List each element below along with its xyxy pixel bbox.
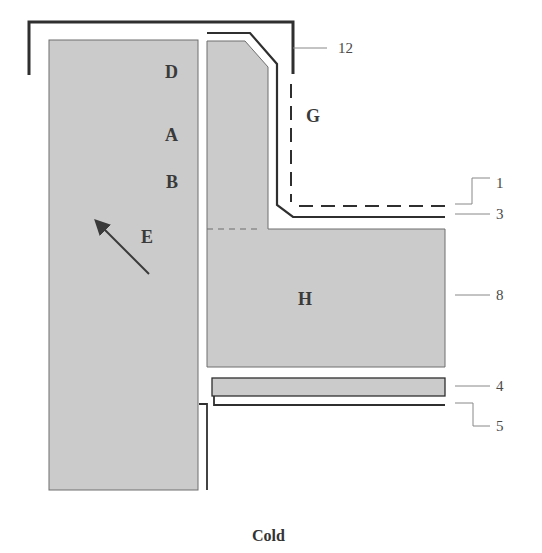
callout-3: 3 [496, 206, 504, 222]
dashed-line-1 [291, 84, 445, 206]
lower-gap-line [199, 404, 207, 490]
left-block [49, 40, 198, 490]
label-b: B [166, 172, 178, 192]
label-e: E [141, 227, 153, 247]
label-a: A [165, 125, 178, 145]
leader-5 [455, 403, 490, 426]
cross-section-diagram: D A B E G H 12 1 3 8 4 5 Cold [0, 0, 542, 553]
layer-4-strip [212, 378, 445, 396]
label-h: H [298, 289, 312, 309]
label-g: G [306, 106, 320, 126]
callout-5: 5 [496, 418, 504, 434]
layer-5-line [214, 396, 445, 405]
callout-8: 8 [496, 287, 504, 303]
leader-1 [455, 178, 490, 204]
callout-4: 4 [496, 378, 504, 394]
label-d: D [165, 62, 178, 82]
callout-1: 1 [496, 175, 504, 191]
callout-12: 12 [338, 40, 353, 56]
caption: Cold [252, 527, 285, 544]
inner-l-block [207, 41, 445, 367]
